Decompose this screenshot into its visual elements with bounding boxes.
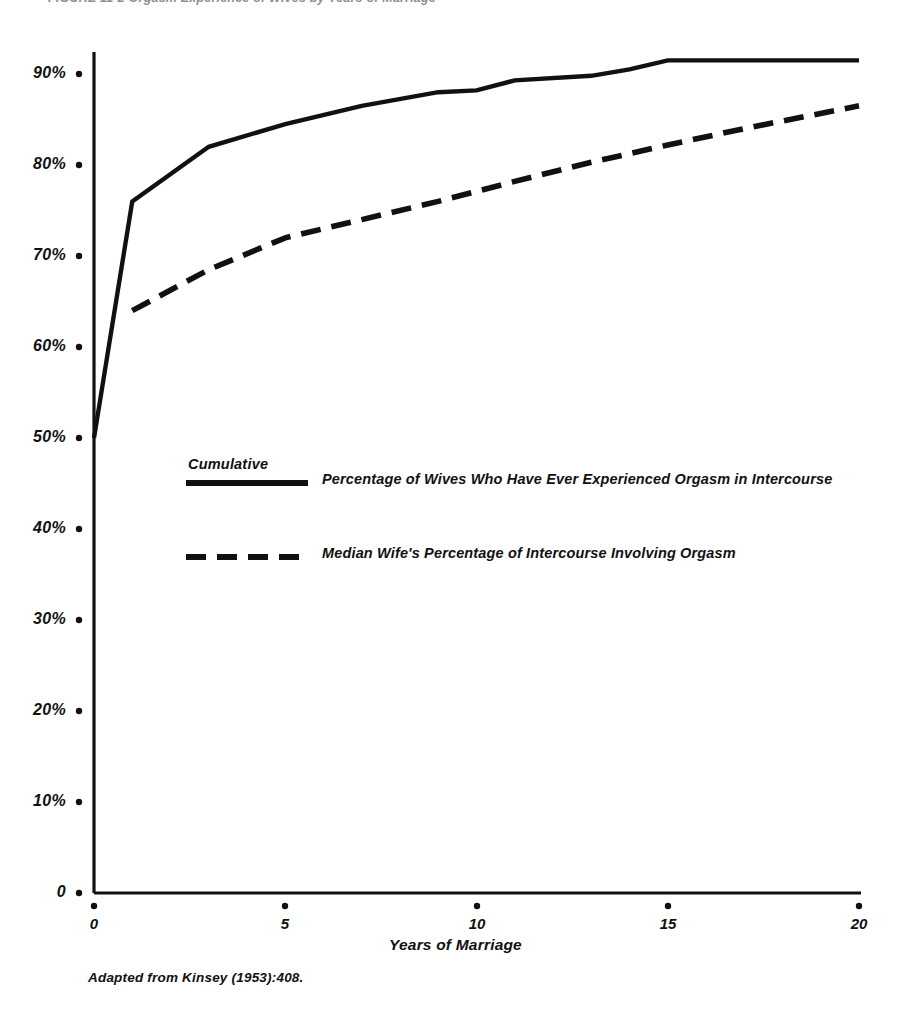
y-tick-label-10: 10% [0,792,66,810]
y-tick-label-20: 20% [0,701,66,719]
y-tick-label-90: 90% [0,64,66,82]
x-tick-label-10: 10 [452,915,502,932]
legend-swatch-solid-line [186,480,308,486]
legend-label-median-percentage: Median Wife's Percentage of Intercourse … [322,545,736,561]
source-note: Adapted from Kinsey (1953):408. [88,970,304,985]
legend-label-cumulative-percentage: Percentage of Wives Who Have Ever Experi… [322,471,832,487]
legend-heading-cumulative: Cumulative [188,456,268,472]
y-tick-label-70: 70% [0,246,66,264]
x-tick-label-5: 5 [260,915,310,932]
chart-plot-area: 90% 80% 70% 60% 50% 40% 30% 20% 10% 0 0 … [0,0,911,960]
chart-legend: Cumulative Percentage of Wives Who Have … [186,458,886,576]
y-tick-dots [76,71,82,896]
x-tick-label-0: 0 [69,915,119,932]
legend-swatch-dashed-line [186,554,308,560]
y-tick-label-30: 30% [0,610,66,628]
legend-row-median: Median Wife's Percentage of Intercourse … [186,532,886,576]
y-tick-label-50: 50% [0,428,66,446]
x-tick-dots [91,903,862,909]
y-tick-label-80: 80% [0,155,66,173]
y-tick-label-40: 40% [0,519,66,537]
y-tick-label-0: 0 [0,883,66,901]
legend-row-cumulative: Cumulative Percentage of Wives Who Have … [186,458,886,502]
x-tick-label-20: 20 [834,915,884,932]
y-tick-label-60: 60% [0,337,66,355]
figure-root: FIGURE 11-2 Orgasm Experience of Wives b… [0,0,911,1020]
series-line-cumulative-ever-experienced [94,60,859,438]
x-tick-label-15: 15 [643,915,693,932]
x-axis-title: Years of Marriage [0,936,911,954]
